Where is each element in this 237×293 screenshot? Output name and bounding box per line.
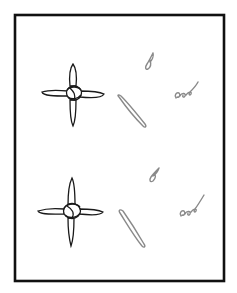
loose-loop-top (118, 95, 146, 127)
loose-squiggle-top (175, 82, 198, 98)
figure-svg (0, 0, 237, 293)
panel-top (42, 53, 198, 127)
panel-bottom (38, 168, 204, 247)
loose-pieces-bottom (119, 168, 204, 247)
knot-arm-down (68, 218, 74, 246)
knot-arm-down (70, 100, 76, 126)
loose-tab-bottom (150, 168, 159, 182)
cross-knot-top (42, 64, 104, 126)
cross-knot-bottom (38, 178, 103, 246)
knot-arm-up (70, 64, 77, 86)
knot-figure (0, 0, 237, 293)
loose-loop-bottom (119, 210, 145, 247)
frame-border (15, 15, 224, 281)
knot-arm-left (42, 90, 68, 96)
loose-pieces-top (118, 53, 198, 127)
knot-arm-left (38, 209, 64, 215)
loose-squiggle-bottom (180, 195, 204, 216)
knot-arm-right (79, 209, 103, 215)
knot-arm-up (68, 178, 75, 205)
loose-tab-top (146, 53, 154, 69)
knot-arm-right (80, 91, 104, 98)
